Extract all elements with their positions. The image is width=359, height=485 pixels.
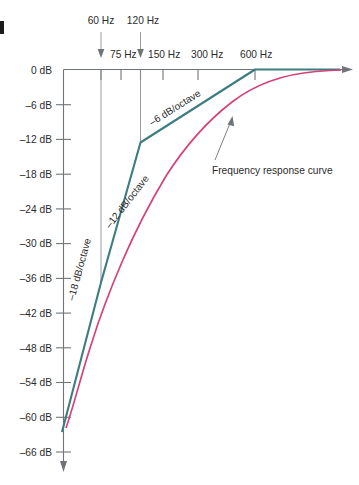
bode-plot-svg: 0 dB –6 dB –12 dB –18 dB –24 dB –30 dB –… <box>0 0 359 485</box>
page-corner-mark <box>0 21 4 34</box>
y-tick-label-8: –48 dB <box>20 343 52 354</box>
callout-label-frequency-response-curve: Frequency response curve <box>212 165 333 176</box>
pointer-arrow-120hz <box>137 49 144 58</box>
y-tick-label-10: –60 dB <box>20 412 52 423</box>
slope-label-18db: –18 dB/octave <box>65 237 93 302</box>
freq-label-300hz: 300 Hz <box>191 49 223 60</box>
y-tick-label-7: –42 dB <box>20 308 52 319</box>
frequency-response-figure: 0 dB –6 dB –12 dB –18 dB –24 dB –30 dB –… <box>0 0 359 485</box>
y-tick-label-1: –6 dB <box>25 100 52 111</box>
y-tick-label-6: –36 dB <box>20 273 52 284</box>
y-axis-arrow-icon <box>60 461 67 472</box>
freq-label-75hz: 75 Hz <box>110 49 137 60</box>
pointer-arrow-60hz <box>98 49 105 58</box>
x-axis-arrow-icon <box>342 66 353 73</box>
y-tick-label-11: –66 dB <box>20 447 52 458</box>
y-tick-label-4: –24 dB <box>20 204 52 215</box>
callout-arrow-icon <box>228 116 235 126</box>
freq-label-120hz: 120 Hz <box>127 15 159 26</box>
freq-label-150hz: 150 Hz <box>148 49 180 60</box>
slope-label-12db: –12 dB/octave <box>103 173 151 230</box>
y-tick-label-9: –54 dB <box>20 377 52 388</box>
callout-leader-line <box>215 122 231 160</box>
y-tick-label-3: –18 dB <box>20 169 52 180</box>
x-axis-ticks <box>101 70 255 81</box>
y-tick-label-2: –12 dB <box>20 134 52 145</box>
y-tick-label-0: 0 dB <box>31 65 52 76</box>
freq-label-60hz: 60 Hz <box>88 15 115 26</box>
ideal-asymptote-curve <box>62 70 340 433</box>
freq-label-600hz: 600 Hz <box>240 49 272 60</box>
y-tick-label-5: –30 dB <box>20 238 52 249</box>
frequency-response-curve <box>66 70 341 428</box>
